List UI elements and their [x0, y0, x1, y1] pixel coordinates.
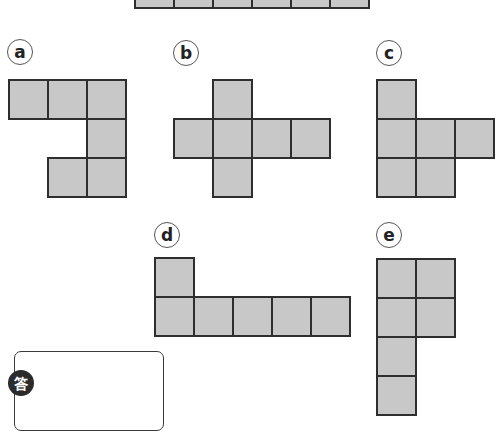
- net-d-cell: [193, 296, 234, 337]
- net-e-cell: [376, 297, 417, 338]
- net-c-cell: [376, 118, 417, 159]
- net-b-cell: [290, 118, 331, 159]
- net-a-cell: [47, 157, 88, 198]
- option-label-d[interactable]: d: [154, 222, 180, 248]
- option-label-e[interactable]: e: [376, 222, 402, 248]
- net-b-cell: [173, 118, 214, 159]
- net-b-cell: [212, 79, 253, 120]
- net-d-cell: [154, 257, 195, 298]
- answer-box[interactable]: [14, 351, 164, 431]
- reference-strip-cell: [251, 0, 292, 9]
- net-e-cell: [415, 258, 456, 299]
- net-c-cell: [376, 79, 417, 120]
- net-d-cell: [154, 296, 195, 337]
- option-label-a[interactable]: a: [7, 39, 33, 65]
- net-a-cell: [86, 157, 127, 198]
- net-e-cell: [415, 297, 456, 338]
- net-d-cell: [271, 296, 312, 337]
- reference-strip-cell: [329, 0, 370, 9]
- reference-strip-cell: [134, 0, 175, 9]
- option-label-b[interactable]: b: [173, 40, 199, 66]
- net-d-cell: [310, 296, 351, 337]
- net-c-cell: [454, 118, 495, 159]
- net-d-cell: [232, 296, 273, 337]
- reference-strip-cell: [173, 0, 214, 9]
- net-a-cell: [47, 79, 88, 120]
- net-c-cell: [376, 157, 417, 198]
- net-e-cell: [376, 336, 417, 377]
- reference-strip-cell: [290, 0, 331, 9]
- option-label-c[interactable]: c: [376, 40, 402, 66]
- net-c-cell: [415, 118, 456, 159]
- net-b-cell: [251, 118, 292, 159]
- net-a-cell: [86, 79, 127, 120]
- net-b-cell: [212, 118, 253, 159]
- net-a-cell: [8, 79, 49, 120]
- net-b-cell: [212, 157, 253, 198]
- net-e-cell: [376, 258, 417, 299]
- net-c-cell: [415, 157, 456, 198]
- answer-badge: 答: [8, 370, 34, 396]
- net-e-cell: [376, 375, 417, 416]
- net-a-cell: [86, 118, 127, 159]
- reference-strip-cell: [212, 0, 253, 9]
